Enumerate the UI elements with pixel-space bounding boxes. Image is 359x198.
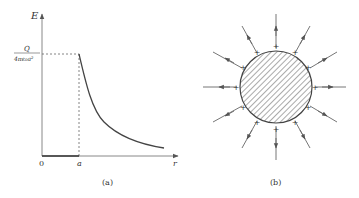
charged-sphere xyxy=(240,51,312,123)
field-line-dl2 xyxy=(213,106,242,122)
charge-ur1: + xyxy=(292,48,299,57)
figure-canvas: E 0 a r Q 4πε₀a² (a) xyxy=(0,0,359,198)
radius-tick-label: a xyxy=(77,159,82,168)
charge-left: + xyxy=(233,83,240,92)
origin-label: 0 xyxy=(39,159,44,168)
charge-ul2: + xyxy=(240,63,247,72)
caption-a: (a) xyxy=(102,178,113,187)
charge-dl2: + xyxy=(240,103,247,112)
peak-label-numerator: Q xyxy=(24,45,30,53)
charge-ur2: + xyxy=(305,63,312,72)
x-axis-label: r xyxy=(173,159,178,168)
charge-dr2: + xyxy=(305,103,312,112)
figure-a: E 0 a r Q 4πε₀a² (a) xyxy=(13,10,178,187)
arrow-ul1 xyxy=(247,35,252,44)
charge-top: + xyxy=(273,42,280,51)
arrow-ur1 xyxy=(300,35,305,44)
charge-dr1: + xyxy=(292,118,299,127)
figure-b: + + + + + + + + + + + + (b) xyxy=(203,14,346,187)
arrow-ur2 xyxy=(318,58,327,63)
charge-right: + xyxy=(312,83,319,92)
caption-b: (b) xyxy=(270,178,281,187)
arrow-dl2 xyxy=(225,111,234,116)
y-axis-label: E xyxy=(30,10,39,21)
arrow-dl1 xyxy=(247,130,252,139)
arrow-dr1 xyxy=(300,130,305,139)
charge-bottom: + xyxy=(273,125,280,134)
peak-label-denominator: 4πε₀a² xyxy=(13,55,34,62)
charge-ul1: + xyxy=(254,48,261,57)
field-outside-curve xyxy=(79,54,164,148)
arrow-dr2 xyxy=(318,111,327,116)
charge-dl1: + xyxy=(254,118,261,127)
field-line-ul2 xyxy=(213,52,242,68)
arrow-ul2 xyxy=(225,58,234,63)
